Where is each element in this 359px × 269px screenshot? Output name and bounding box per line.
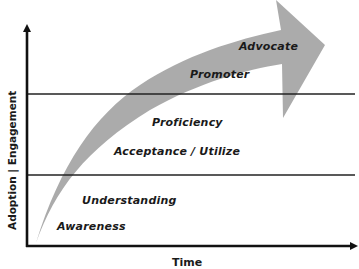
stage-understanding: Understanding [82, 194, 177, 207]
y-axis-label: Adoption | Engagement [6, 91, 18, 230]
stage-advocate: Advocate [239, 40, 298, 53]
stage-proficiency: Proficiency [152, 116, 223, 129]
stage-promoter: Promoter [190, 68, 249, 81]
stage-acceptance: Acceptance / Utilize [114, 145, 240, 158]
x-axis-label: Time [172, 256, 202, 269]
y-axis-arrowhead-icon [23, 24, 31, 32]
stage-awareness: Awareness [57, 220, 126, 233]
x-axis-arrowhead-icon [350, 242, 358, 250]
